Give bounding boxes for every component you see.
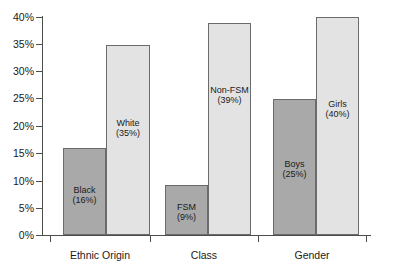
y-tick-15 bbox=[36, 153, 42, 154]
x-group-tick-2 bbox=[258, 236, 259, 242]
bar-fsm[interactable]: FSM (9%) bbox=[165, 185, 208, 235]
x-axis-line bbox=[42, 235, 371, 236]
bar-label-non-fsm-name: Non-FSM bbox=[209, 85, 250, 96]
plot-area: Black (16%) White (35%) FSM (9%) Non-FSM… bbox=[43, 17, 370, 235]
x-group-tick-1 bbox=[150, 236, 151, 242]
bar-label-white-value: (35%) bbox=[107, 128, 149, 139]
y-tick-10 bbox=[36, 181, 42, 182]
bar-chart: 40% 35% 30% 25% 20% 15% 10% 5% 0% Ethnic… bbox=[0, 0, 393, 277]
y-tick-5 bbox=[36, 208, 42, 209]
bar-label-fsm-value: (9%) bbox=[166, 212, 207, 223]
y-axis-label-10: 10% bbox=[13, 176, 34, 187]
y-tick-40 bbox=[36, 17, 42, 18]
bar-label-non-fsm-value: (39%) bbox=[209, 95, 250, 106]
bar-black[interactable]: Black (16%) bbox=[63, 148, 106, 235]
bar-label-black-value: (16%) bbox=[64, 195, 105, 206]
bar-label-boys-value: (25%) bbox=[274, 169, 315, 180]
y-axis-label-30: 30% bbox=[13, 66, 34, 77]
y-axis-label-35: 35% bbox=[13, 39, 34, 50]
y-axis-label-20: 20% bbox=[13, 121, 34, 132]
y-axis-label-25: 25% bbox=[13, 93, 34, 104]
y-axis-label-5: 5% bbox=[19, 203, 34, 214]
x-axis-group-gender: Gender bbox=[258, 250, 366, 261]
bar-label-black-name: Black bbox=[64, 185, 105, 196]
x-axis-group-ethnic-origin: Ethnic Origin bbox=[44, 250, 156, 261]
bar-label-girls-name: Girls bbox=[317, 99, 358, 110]
bar-label-fsm-name: FSM bbox=[166, 202, 207, 213]
y-tick-30 bbox=[36, 71, 42, 72]
y-axis-label-40: 40% bbox=[13, 12, 34, 23]
bar-boys[interactable]: Boys (25%) bbox=[273, 99, 316, 235]
bar-label-white-name: White bbox=[107, 118, 149, 129]
y-axis-label-15: 15% bbox=[13, 148, 34, 159]
bar-non-fsm[interactable]: Non-FSM (39%) bbox=[208, 23, 251, 235]
bar-label-girls-value: (40%) bbox=[317, 109, 358, 120]
y-axis-label-0: 0% bbox=[19, 230, 34, 241]
y-tick-35 bbox=[36, 44, 42, 45]
y-tick-25 bbox=[36, 98, 42, 99]
bar-white[interactable]: White (35%) bbox=[106, 45, 150, 235]
bar-label-boys-name: Boys bbox=[274, 159, 315, 170]
x-group-tick-right bbox=[366, 236, 367, 242]
x-axis-group-class: Class bbox=[154, 250, 254, 261]
y-tick-20 bbox=[36, 126, 42, 127]
x-group-tick-left bbox=[50, 236, 51, 242]
bar-girls[interactable]: Girls (40%) bbox=[316, 17, 359, 235]
